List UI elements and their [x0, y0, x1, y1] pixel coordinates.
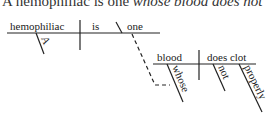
word-does-clot: does clot	[207, 51, 246, 63]
word-hemophiliac: hemophiliac	[10, 20, 64, 32]
word-is: is	[92, 20, 99, 32]
word-a: A	[39, 34, 53, 46]
sentence-diagram: hemophiliac is one A blood does clot who…	[0, 0, 269, 115]
word-blood: blood	[157, 51, 183, 63]
word-one: one	[127, 20, 143, 32]
complement-slash	[116, 22, 122, 33]
word-properly: properly	[242, 63, 269, 102]
